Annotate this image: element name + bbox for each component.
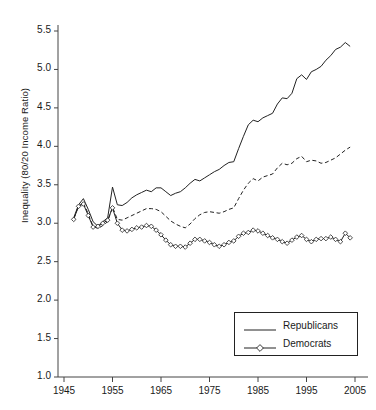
legend-item-republicans: Republicans — [243, 320, 338, 331]
legend-label-republicans: Republicans — [283, 320, 338, 331]
y-tick-1.5: 1.5 — [21, 332, 51, 343]
y-tick-2.0: 2.0 — [21, 293, 51, 304]
series-markers-2 — [71, 202, 352, 250]
chart-container: Inequality (80/20 Income Ratio) 1.01.52.… — [0, 0, 376, 410]
x-tick-1975: 1975 — [190, 385, 230, 396]
y-tick-4.5: 4.5 — [21, 101, 51, 112]
legend-item-democrats: Democrats — [243, 338, 331, 349]
x-tick-2005: 2005 — [335, 385, 375, 396]
y-tick-1.0: 1.0 — [21, 370, 51, 381]
y-tick-2.5: 2.5 — [21, 255, 51, 266]
x-tick-1985: 1985 — [238, 385, 278, 396]
y-tick-5.5: 5.5 — [21, 24, 51, 35]
x-tick-1965: 1965 — [141, 385, 181, 396]
chart-legend: Republicans Democrats — [234, 312, 358, 356]
y-tick-5.0: 5.0 — [21, 62, 51, 73]
series-line-0 — [74, 43, 350, 227]
x-tick-1955: 1955 — [93, 385, 133, 396]
legend-line-democrats — [243, 339, 277, 349]
legend-line-republicans — [243, 321, 277, 331]
x-tick-1945: 1945 — [44, 385, 84, 396]
y-tick-4.0: 4.0 — [21, 139, 51, 150]
x-tick-1995: 1995 — [287, 385, 327, 396]
legend-label-democrats: Democrats — [283, 338, 331, 349]
series-line-2 — [74, 204, 350, 247]
y-tick-3.5: 3.5 — [21, 178, 51, 189]
y-tick-3.0: 3.0 — [21, 216, 51, 227]
